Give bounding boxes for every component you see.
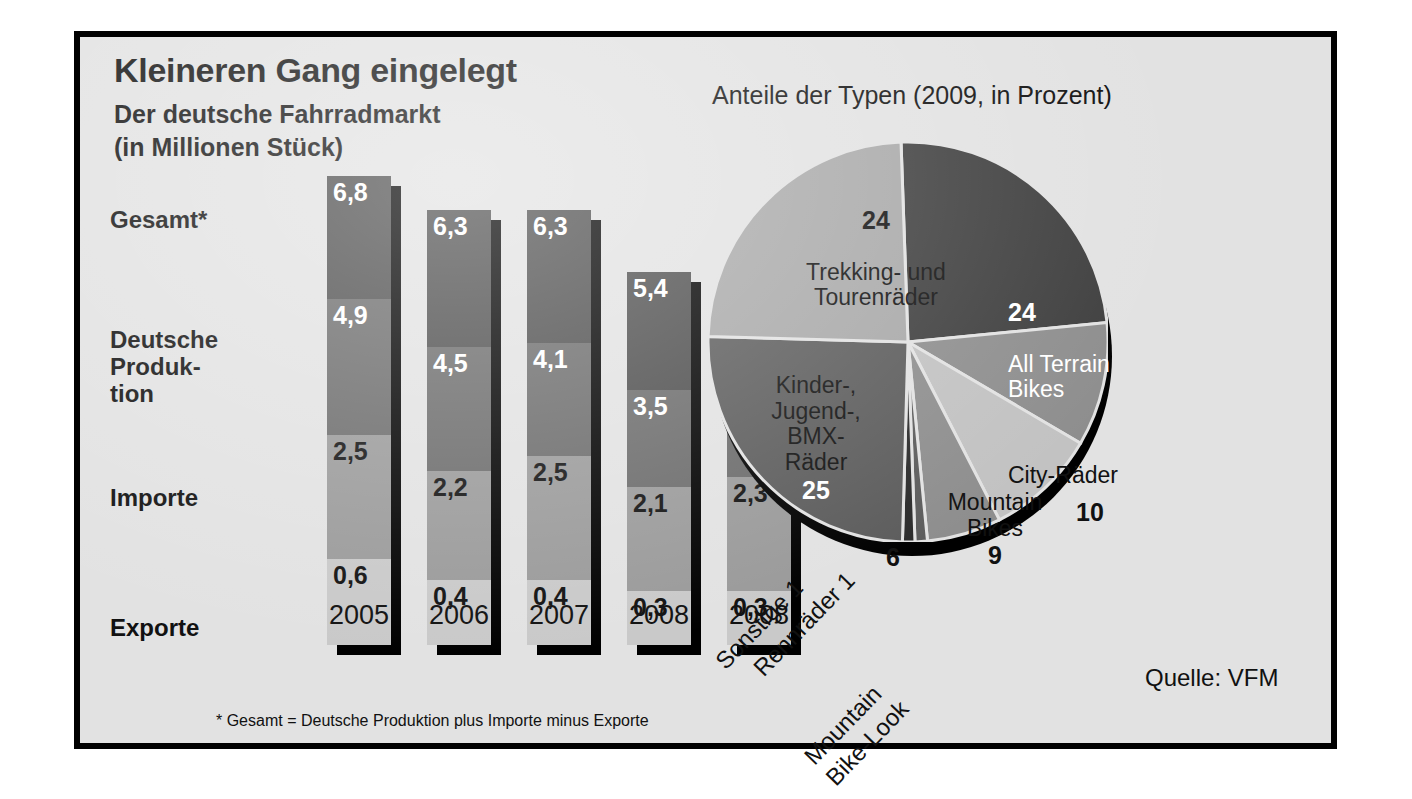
bar-segment: 3,5: [627, 390, 691, 487]
pie-name-mtb-look: Mountain Bike-Look: [799, 680, 914, 791]
pie-value-trekking: 24: [756, 206, 996, 234]
bar-segment-value: 4,1: [533, 345, 568, 374]
bar-segment: 2,5: [327, 435, 391, 559]
bar-category-label: 2006: [419, 600, 499, 631]
stacked-bar[interactable]: 6,34,12,50,4: [527, 210, 591, 645]
infographic-frame: Kleineren Gang eingelegt Der deutsche Fa…: [74, 31, 1337, 749]
pie-name-trekking: Trekking- und Tourenräder: [806, 259, 946, 311]
bar-segment: 5,4: [627, 272, 691, 390]
bar-category-label: 2007: [519, 600, 599, 631]
bar-segment-value: 2,2: [433, 473, 468, 502]
pie-label-trekking: 24 Trekking- und Tourenräder: [756, 180, 996, 311]
bar-segment-value: 6,3: [533, 212, 568, 241]
pie-value-mountain-bikes: 9: [930, 541, 1060, 569]
pie-name-all-terrain: All Terrain Bikes: [1008, 351, 1110, 403]
pie-chart: 24 Trekking- und Tourenräder 24 All Terr…: [708, 142, 1308, 662]
row-label-imports: Importe: [110, 485, 198, 512]
bar-category-label: 2008: [619, 600, 699, 631]
bar-segment-value: 2,5: [533, 458, 568, 487]
chart-subtitle-line2: (in Millionen Stück): [114, 133, 343, 162]
bar-segment: 4,5: [427, 347, 491, 471]
pie-label-mountain-bikes: Mountain Bikes 9: [930, 464, 1060, 595]
bar-segment-value: 4,9: [333, 301, 368, 330]
bar-segment: 6,3: [527, 210, 591, 343]
bar-segment-value: 2,1: [633, 489, 668, 518]
stacked-bar[interactable]: 6,34,52,20,4: [427, 210, 491, 645]
bar-segment: 4,9: [327, 299, 391, 434]
bar-segment: 2,2: [427, 471, 491, 580]
bar-segment-value: 4,5: [433, 349, 468, 378]
bar-segment: 2,5: [527, 456, 591, 580]
bar-segment: 6,3: [427, 210, 491, 346]
stacked-bar[interactable]: 5,43,52,10,3: [627, 272, 691, 645]
bar-segment-value: 6,3: [433, 212, 468, 241]
pie-label-kinder: Kinder-, Jugend-, BMX- Räder 25: [726, 347, 906, 530]
bar-segment: 6,8: [327, 176, 391, 300]
bar-segment-value: 2,5: [333, 437, 368, 466]
pie-label-all-terrain: 24 All Terrain Bikes: [1008, 272, 1138, 403]
pie-value-city: 10: [1076, 498, 1136, 526]
bar-segment-value: 0,6: [333, 561, 368, 590]
bar-segment-value: 6,8: [333, 178, 368, 207]
bar-segment: 2,1: [627, 487, 691, 591]
pie-value-mtb-look: 6: [868, 543, 918, 571]
pie-name-mountain-bikes: Mountain Bikes: [948, 489, 1043, 541]
pie-chart-header: Anteile der Typen (2009, in Prozent): [712, 81, 1112, 110]
page-title: Kleineren Gang eingelegt: [114, 51, 517, 90]
pie-value-all-terrain: 24: [1008, 298, 1138, 326]
row-label-exports: Exporte: [110, 615, 199, 642]
row-label-production: Deutsche Produk- tion: [110, 327, 218, 408]
pie-value-city-wrap: 10: [1076, 472, 1136, 552]
pie-label-mtb-look: Mountain Bike-Look: [776, 653, 915, 792]
bar-segment: 4,1: [527, 343, 591, 456]
row-label-total: Gesamt*: [110, 207, 207, 234]
footnote: * Gesamt = Deutsche Produktion plus Impo…: [216, 712, 649, 730]
bar-segment-value: 3,5: [633, 392, 668, 421]
stacked-bar[interactable]: 6,84,92,50,6: [327, 176, 391, 645]
source-label: Quelle: VFM: [1145, 664, 1278, 692]
bar-category-label: 2005: [319, 600, 399, 631]
bar-segment-value: 5,4: [633, 274, 668, 303]
chart-subtitle-line1: Der deutsche Fahrradmarkt: [114, 100, 441, 129]
pie-value-kinder: 25: [726, 476, 906, 504]
pie-name-kinder: Kinder-, Jugend-, BMX- Räder: [771, 372, 861, 475]
bar-chart: 6,84,92,50,620056,34,52,20,420066,34,12,…: [260, 177, 685, 697]
